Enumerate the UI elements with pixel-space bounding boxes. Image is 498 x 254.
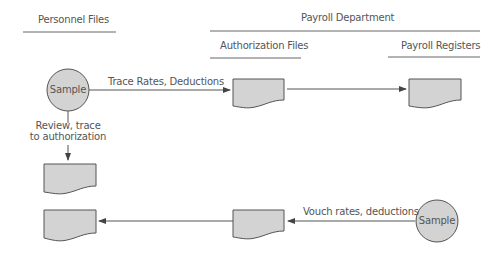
personnel-document-icon-1 — [44, 164, 96, 194]
authorization-files-header: Authorization Files — [220, 40, 308, 51]
personnel-document-icon-2 — [44, 210, 96, 241]
authorization-document-icon-bottom — [233, 210, 284, 239]
payroll-registers-header: Payroll Registers — [401, 40, 480, 51]
review-trace-label-line1: Review, trace — [28, 120, 108, 131]
review-trace-label-line2: to authorization — [28, 131, 108, 142]
sample-label-top: Sample — [47, 84, 89, 95]
payroll-audit-diagram: Personnel Files Payroll Department Autho… — [0, 0, 498, 254]
authorization-document-icon — [233, 79, 284, 108]
sample-label-bottom: Sample — [416, 215, 458, 226]
payroll-register-document-icon — [409, 79, 461, 108]
trace-rates-label: Trace Rates, Deductions — [108, 76, 224, 87]
personnel-files-header: Personnel Files — [38, 14, 109, 25]
payroll-department-header: Payroll Department — [301, 12, 394, 23]
vouch-rates-label: Vouch rates, deductions — [303, 206, 419, 217]
